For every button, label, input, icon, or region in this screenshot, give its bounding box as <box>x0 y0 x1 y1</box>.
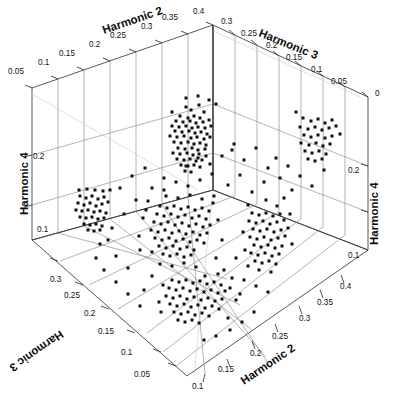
data-point <box>263 236 266 239</box>
data-point <box>266 228 269 231</box>
data-point <box>165 247 168 250</box>
tick-h2top-5: 0.3 <box>141 22 153 31</box>
data-point <box>321 129 324 132</box>
data-point <box>169 255 172 258</box>
data-point <box>324 137 327 140</box>
data-point <box>197 157 200 160</box>
data-point <box>183 262 186 265</box>
data-point <box>235 257 238 260</box>
data-point <box>274 247 277 250</box>
data-point <box>278 253 281 256</box>
data-point <box>191 127 194 130</box>
data-point <box>171 111 174 114</box>
data-point <box>267 291 270 294</box>
data-point <box>208 315 211 318</box>
tick-h3bot-5: 0.05 <box>134 370 150 379</box>
data-point <box>310 120 313 123</box>
data-point <box>276 205 279 208</box>
data-point <box>177 197 180 200</box>
data-point <box>194 314 197 317</box>
data-point <box>103 217 106 220</box>
data-point <box>204 275 207 278</box>
data-point <box>231 277 234 280</box>
data-point <box>254 260 257 263</box>
data-point <box>322 145 325 148</box>
data-point <box>199 142 202 145</box>
tick-h3top-6: 0 <box>375 89 380 98</box>
data-point <box>273 231 276 234</box>
data-point <box>218 308 221 311</box>
data-point <box>127 293 130 296</box>
data-point <box>78 189 81 192</box>
data-point <box>201 312 204 315</box>
data-point <box>213 281 216 284</box>
data-point <box>123 213 126 216</box>
data-point <box>311 185 314 188</box>
data-point <box>256 238 259 241</box>
data-point <box>185 97 188 100</box>
data-point <box>170 213 173 216</box>
data-point <box>105 212 108 215</box>
data-point <box>172 245 175 248</box>
tick-h2top-0: 0.05 <box>8 67 24 76</box>
data-point <box>181 222 184 225</box>
data-point <box>300 142 303 145</box>
data-point <box>102 190 105 193</box>
axis-title-harmonic2-bottom: Harmonic 2 <box>238 342 297 387</box>
data-point <box>91 216 94 219</box>
data-point <box>233 143 236 146</box>
data-point <box>119 187 122 190</box>
data-point <box>192 282 195 285</box>
data-point <box>193 164 196 167</box>
data-point <box>201 159 204 162</box>
data-point <box>318 150 321 153</box>
data-point <box>171 279 174 282</box>
data-point <box>191 319 194 322</box>
data-point <box>289 213 292 216</box>
data-point <box>208 99 211 102</box>
data-point <box>81 210 84 213</box>
data-point <box>224 290 227 293</box>
tick-h2top-2: 0.15 <box>59 49 75 58</box>
data-point <box>158 245 161 248</box>
data-point <box>163 189 166 192</box>
data-point <box>184 148 187 151</box>
data-point <box>272 215 275 218</box>
data-point <box>205 218 208 221</box>
data-point <box>221 239 224 242</box>
data-point <box>187 185 190 188</box>
data-point <box>115 281 118 284</box>
axis-title-harmonic4-left: Harmonic 4 <box>18 152 30 215</box>
data-point <box>188 130 191 133</box>
data-point <box>151 251 154 254</box>
data-point <box>220 284 223 287</box>
data-point <box>178 230 181 233</box>
data-point <box>162 253 165 256</box>
data-point <box>79 195 82 198</box>
data-point <box>111 227 114 230</box>
tick-h3top-5: 0.05 <box>331 77 347 86</box>
data-point <box>210 125 213 128</box>
data-point <box>164 229 167 232</box>
data-point <box>160 223 163 226</box>
data-point <box>193 143 196 146</box>
data-point <box>190 171 193 174</box>
data-point <box>198 104 201 107</box>
data-point <box>324 122 327 125</box>
data-point <box>179 248 182 251</box>
data-point <box>115 255 118 258</box>
data-point <box>196 239 199 242</box>
data-point <box>167 221 170 224</box>
data-point <box>186 246 189 249</box>
data-point <box>253 244 256 247</box>
data-point <box>169 303 172 306</box>
data-point <box>255 222 258 225</box>
data-point <box>283 197 286 200</box>
data-point <box>187 117 190 120</box>
data-point <box>269 223 272 226</box>
data-point <box>187 141 190 144</box>
data-point <box>206 133 209 136</box>
data-point <box>183 256 186 259</box>
data-point <box>184 321 187 324</box>
data-point <box>261 262 264 265</box>
